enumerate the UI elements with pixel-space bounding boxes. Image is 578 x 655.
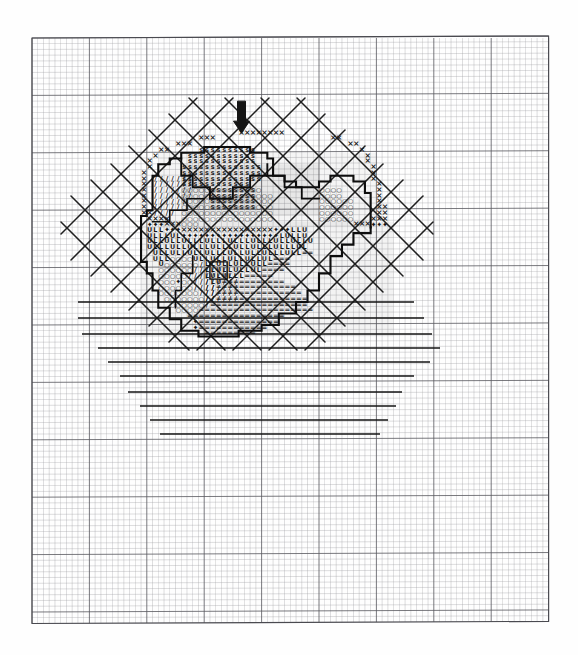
svg-text:○: ○ [319, 215, 324, 222]
svg-text:○: ○ [348, 215, 353, 222]
svg-text:×: × [210, 133, 217, 142]
svg-text:○: ○ [222, 215, 227, 222]
svg-text:○: ○ [181, 306, 186, 313]
svg-text:○: ○ [193, 215, 198, 222]
svg-text:○: ○ [233, 215, 238, 222]
svg-text:○: ○ [268, 215, 273, 222]
svg-text:○: ○ [245, 215, 250, 222]
svg-text:×: × [152, 151, 159, 160]
svg-text:○: ○ [176, 306, 181, 313]
svg-text:×: × [146, 162, 153, 171]
svg-text:U: U [153, 255, 158, 263]
svg-text:○: ○ [187, 215, 192, 222]
svg-text:○: ○ [256, 215, 261, 222]
svg-text:=: = [308, 306, 314, 314]
svg-text:L: L [297, 249, 301, 257]
svg-text:×: × [336, 133, 343, 142]
svg-text:○: ○ [210, 215, 215, 222]
svg-text:○: ○ [325, 215, 330, 222]
pattern-chart-page: ××××××××××××××××××××××××××××××××××××××××… [0, 0, 578, 655]
svg-text:=: = [279, 266, 285, 274]
svg-text:×: × [164, 145, 171, 154]
svg-text:○: ○ [204, 215, 209, 222]
svg-text:×: × [278, 128, 285, 137]
svg-text:×: × [187, 139, 194, 148]
svg-text:U: U [147, 243, 152, 251]
svg-text:○: ○ [262, 215, 267, 222]
svg-text:○: ○ [336, 215, 341, 222]
svg-text:○: ○ [170, 301, 175, 308]
svg-text:✦: ✦ [382, 220, 388, 229]
svg-text:○: ○ [239, 215, 244, 222]
svg-text:○: ○ [216, 215, 221, 222]
svg-text:○: ○ [181, 215, 186, 222]
svg-text:○: ○ [250, 215, 255, 222]
svg-text:=: = [285, 260, 291, 268]
svg-text:○: ○ [199, 215, 204, 222]
svg-text:U: U [308, 237, 313, 245]
svg-text:○: ○ [227, 215, 232, 222]
svg-text:○: ○ [342, 215, 347, 222]
svg-text:L: L [291, 249, 295, 257]
cross-stitch-chart-canvas[interactable]: ××××××××××××××××××××××××××××××××××××××××… [0, 0, 578, 655]
svg-text:○: ○ [331, 215, 336, 222]
svg-text:○: ○ [164, 295, 169, 302]
svg-text:=: = [308, 249, 314, 257]
